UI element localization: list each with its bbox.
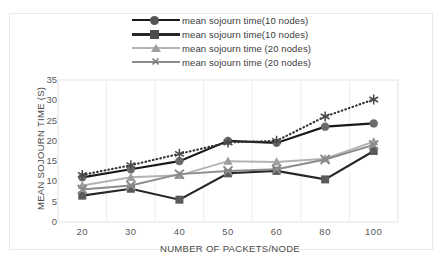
plot-area — [0, 0, 444, 273]
